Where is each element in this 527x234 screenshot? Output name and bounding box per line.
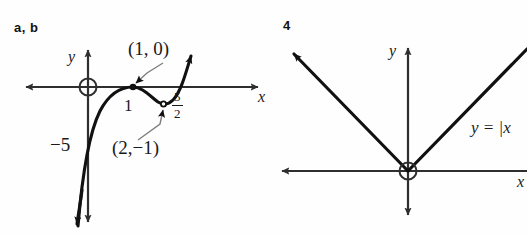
abs-right-arm (408, 49, 527, 171)
leader-2-minus-1 (138, 110, 163, 140)
fraction-numerator: 5 (172, 90, 183, 104)
leader-1-0 (136, 63, 163, 83)
fraction-denominator: 2 (172, 107, 183, 121)
annotation-tick-1: 1 (124, 96, 133, 116)
abs-left-arm (294, 54, 408, 171)
y-axis-label: y (389, 42, 396, 60)
annotation-minus-5: −5 (50, 134, 70, 156)
panel-cubic-graph: a, b (0, 0, 270, 234)
y-axis-label: y (68, 48, 75, 66)
point-marker-1-0 (130, 84, 135, 89)
point-marker-2-minus-1 (161, 101, 166, 106)
x-axis-label: x (517, 173, 524, 191)
annotation-tick-5-over-2: 5 2 (172, 90, 183, 121)
annotation-equation-label: y = |x (471, 118, 511, 138)
panel-absolute-value-graph: 4 y (264, 0, 527, 234)
annotation-point-2-minus-1: (2,−1) (112, 137, 159, 159)
figure-canvas: a, b (0, 0, 527, 234)
absolute-value-graph-svg (264, 0, 527, 234)
cubic-graph-svg (0, 0, 270, 234)
annotation-point-1-0: (1, 0) (128, 38, 169, 60)
